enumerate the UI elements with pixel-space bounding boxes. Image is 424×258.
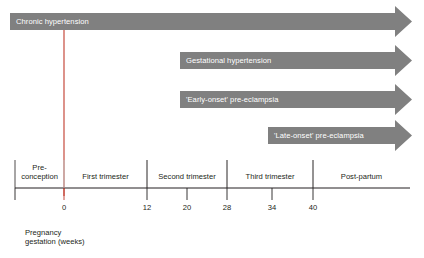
axis-caption-line1: Pregnancy bbox=[25, 228, 85, 237]
period-label-line1: Second trimester bbox=[147, 173, 227, 181]
pregnancy-hypertension-timeline: Chronic hypertensionGestational hyperten… bbox=[0, 0, 424, 258]
axis-caption-line2: gestation (weeks) bbox=[25, 237, 85, 246]
period-label-line1: First trimester bbox=[64, 173, 147, 181]
axis-tick-label: 0 bbox=[49, 204, 79, 212]
axis-caption: Pregnancy gestation (weeks) bbox=[25, 228, 85, 247]
period-label: Second trimester bbox=[147, 173, 227, 181]
arrow-shapes bbox=[10, 6, 412, 151]
period-label-line1: Third trimester bbox=[227, 173, 313, 181]
axis-tick-label: 40 bbox=[298, 204, 328, 212]
axis-tick-marks bbox=[15, 188, 313, 200]
period-label: First trimester bbox=[64, 173, 147, 181]
arrow-label: 'Late-onset' pre-eclampsia bbox=[274, 132, 364, 140]
period-label: Third trimester bbox=[227, 173, 313, 181]
period-label-line2: conception bbox=[15, 172, 64, 181]
axis-tick-label: 34 bbox=[257, 204, 287, 212]
timeline-svg bbox=[0, 0, 424, 258]
arrow-label: 'Early-onset' pre-eclampsia bbox=[186, 96, 278, 104]
axis-tick-label: 28 bbox=[212, 204, 242, 212]
period-label-line1: Pre- bbox=[15, 163, 64, 172]
axis-tick-label: 12 bbox=[132, 204, 162, 212]
period-label: Pre-conception bbox=[15, 163, 64, 182]
arrow-label: Chronic hypertension bbox=[16, 18, 89, 26]
axis-tick-label: 20 bbox=[172, 204, 202, 212]
arrow-label: Gestational hypertension bbox=[186, 57, 271, 65]
period-label-line1: Post-partum bbox=[313, 173, 410, 181]
period-label: Post-partum bbox=[313, 173, 410, 181]
